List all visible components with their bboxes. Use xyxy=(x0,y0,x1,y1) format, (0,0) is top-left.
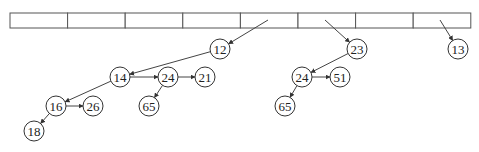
tree-node: 14 xyxy=(110,67,130,87)
node-label: 18 xyxy=(28,124,41,139)
tree-node: 65 xyxy=(139,96,159,116)
node-label: 26 xyxy=(87,99,101,114)
binomial-queue-diagram: 12231314242124511626656518 xyxy=(0,0,479,152)
tree-node: 13 xyxy=(448,39,468,59)
node-label: 65 xyxy=(143,99,156,114)
node-label: 24 xyxy=(162,70,176,85)
array-cell xyxy=(413,13,471,28)
array-cell xyxy=(356,13,414,28)
edge-arrow xyxy=(290,86,297,98)
root-array xyxy=(10,13,471,28)
array-cell xyxy=(125,13,183,28)
edge-arrow xyxy=(41,114,50,124)
tree-node: 16 xyxy=(46,96,66,116)
array-cell xyxy=(183,13,241,28)
tree-node: 51 xyxy=(330,67,350,87)
tree-node: 65 xyxy=(275,96,295,116)
tree-node: 26 xyxy=(83,96,103,116)
tree-node: 12 xyxy=(210,39,230,59)
array-cell xyxy=(10,13,68,28)
tree-node: 24 xyxy=(158,67,178,87)
node-label: 14 xyxy=(114,70,128,85)
edge-arrow xyxy=(154,85,162,97)
array-cell xyxy=(240,13,298,28)
array-cell xyxy=(298,13,356,28)
node-label: 21 xyxy=(199,70,212,85)
node-label: 24 xyxy=(296,70,310,85)
node-label: 13 xyxy=(452,42,465,57)
node-label: 16 xyxy=(50,99,64,114)
node-label: 65 xyxy=(279,99,292,114)
node-label: 51 xyxy=(334,70,347,85)
tree-node: 18 xyxy=(24,121,44,141)
tree-node: 23 xyxy=(347,39,367,59)
node-label: 12 xyxy=(214,42,227,57)
tree-node: 24 xyxy=(292,67,312,87)
array-cell xyxy=(68,13,126,28)
node-label: 23 xyxy=(351,42,364,57)
tree-node: 21 xyxy=(195,67,215,87)
